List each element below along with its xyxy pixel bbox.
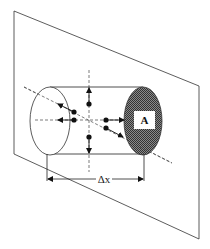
point-dot	[71, 109, 76, 114]
point-dot	[103, 117, 108, 122]
point-dot	[86, 101, 91, 106]
length-label: Δx	[96, 172, 112, 186]
flux-arrow-right-diagonal	[106, 128, 123, 137]
point-dot	[71, 117, 76, 122]
point-dot	[103, 125, 108, 130]
diagram-svg	[0, 0, 210, 249]
diagram-canvas: A Δx	[0, 0, 210, 249]
area-label: A	[134, 111, 155, 129]
cylinder-left-face	[30, 87, 70, 155]
point-dot	[86, 134, 91, 139]
